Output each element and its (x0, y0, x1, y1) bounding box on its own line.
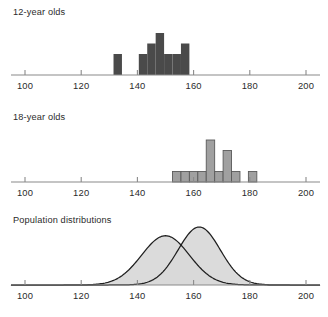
histogram-bar (215, 172, 223, 183)
panel-12-year-olds: 12-year olds 100120140160180200 (0, 0, 328, 107)
histogram-bar (114, 54, 122, 75)
axis-tick-label-160: 160 (185, 187, 201, 198)
axis-tick-label-180: 180 (242, 80, 258, 91)
histogram-bar (173, 172, 181, 183)
distribution-curves (11, 227, 320, 285)
histogram-bar (232, 172, 240, 183)
axis-tick-label-140: 140 (129, 80, 145, 91)
bars-group (173, 140, 257, 182)
axis-tick-label-120: 120 (73, 290, 89, 301)
axis-tick-label-140: 140 (129, 290, 145, 301)
histogram-bar (181, 44, 189, 76)
axis-tick-label-200: 200 (298, 80, 314, 91)
histogram-bar (223, 151, 231, 183)
histogram-bar (198, 172, 206, 183)
axis-tick-label-180: 180 (242, 187, 258, 198)
panel-population-distributions: Population distributions 100120140160180… (0, 210, 328, 317)
histogram-bar (206, 140, 214, 182)
axis-tick-label-200: 200 (298, 187, 314, 198)
axis-tick-label-200: 200 (298, 290, 314, 301)
axis-tick-label-100: 100 (17, 187, 33, 198)
histogram-bar (156, 33, 164, 75)
x-axis-18: 100120140160180200 (11, 177, 320, 198)
histogram-bar (147, 44, 155, 76)
plot-18-year-olds: 100120140160180200 (0, 107, 328, 210)
histogram-bar (181, 172, 189, 183)
axis-tick-label-180: 180 (242, 290, 258, 301)
axis-tick-label-120: 120 (73, 80, 89, 91)
plot-population-distributions: 100120140160180200 (0, 210, 328, 317)
histogram-bar (173, 54, 181, 75)
plot-12-year-olds: 100120140160180200 (0, 0, 328, 107)
bars-group (114, 33, 190, 75)
axis-tick-label-120: 120 (73, 187, 89, 198)
axis-tick-label-140: 140 (129, 187, 145, 198)
histogram-bar (139, 54, 147, 75)
axis-tick-label-100: 100 (17, 290, 33, 301)
histogram-bar (164, 54, 172, 75)
axis-tick-label-160: 160 (185, 80, 201, 91)
axis-tick-label-100: 100 (17, 80, 33, 91)
axis-tick-label-160: 160 (185, 290, 201, 301)
figure-three-panel-histograms: 12-year olds 100120140160180200 18-year … (0, 0, 328, 317)
panel-18-year-olds: 18-year olds 100120140160180200 (0, 107, 328, 210)
